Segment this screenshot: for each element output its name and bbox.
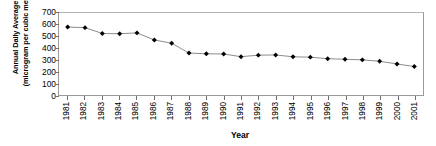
x-axis-title: Year <box>0 130 436 140</box>
data-point-marker <box>100 31 105 36</box>
data-point-marker <box>291 54 296 59</box>
x-tick-mark <box>398 96 399 100</box>
x-tick-mark <box>84 96 85 100</box>
data-point-marker <box>204 51 209 56</box>
x-tick-mark <box>241 96 242 100</box>
data-point-marker <box>239 54 244 59</box>
x-tick-mark <box>224 96 225 100</box>
data-point-marker <box>187 51 192 56</box>
x-tick-label: 1985 <box>131 102 141 120</box>
data-point-marker <box>65 25 70 30</box>
data-point-marker <box>117 31 122 36</box>
x-tick-label: 1989 <box>201 102 211 120</box>
data-point-marker <box>221 52 226 57</box>
y-tick-mark <box>55 36 59 37</box>
y-tick-label: 700 <box>24 8 56 16</box>
data-point-marker <box>308 55 313 60</box>
x-tick-label: 1986 <box>149 102 159 120</box>
y-tick-label: 200 <box>24 68 56 76</box>
x-tick-mark <box>119 96 120 100</box>
x-tick-mark <box>328 96 329 100</box>
x-tick-label: 1982 <box>79 102 89 120</box>
y-axis-title-line1: Annual Daily Average <box>11 0 21 91</box>
x-tick-mark <box>276 96 277 100</box>
data-point-marker <box>343 57 348 62</box>
x-tick-mark <box>136 96 137 100</box>
x-tick-label: 1983 <box>97 102 107 120</box>
x-tick-label: 1995 <box>306 102 316 120</box>
x-tick-mark <box>363 96 364 100</box>
y-tick-mark <box>55 84 59 85</box>
x-tick-label: 1984 <box>114 102 124 120</box>
data-point-marker <box>360 57 365 62</box>
y-tick-mark <box>55 60 59 61</box>
x-tick-mark <box>206 96 207 100</box>
y-tick-mark <box>55 96 59 97</box>
data-point-marker <box>377 59 382 64</box>
x-tick-label: 1988 <box>184 102 194 120</box>
x-tick-mark <box>311 96 312 100</box>
data-point-marker <box>325 56 330 61</box>
x-tick-mark <box>189 96 190 100</box>
x-tick-label: 1997 <box>341 102 351 120</box>
data-point-marker <box>135 30 140 35</box>
x-tick-label: 1994 <box>288 102 298 120</box>
x-tick-label: 1992 <box>253 102 263 120</box>
x-tick-label: 1981 <box>62 102 72 120</box>
x-tick-mark <box>102 96 103 100</box>
x-tick-label: 1996 <box>323 102 333 120</box>
x-tick-label: 1991 <box>236 102 246 120</box>
x-tick-label: 1993 <box>271 102 281 120</box>
chart-figure: Annual Daily Average (microgram per cubi… <box>0 0 436 146</box>
data-point-marker <box>412 64 417 69</box>
data-point-marker <box>169 41 174 46</box>
y-tick-mark <box>55 12 59 13</box>
x-tick-label: 2000 <box>393 102 403 120</box>
plot-area <box>58 12 424 96</box>
x-tick-mark <box>67 96 68 100</box>
x-tick-mark <box>171 96 172 100</box>
y-tick-mark <box>55 48 59 49</box>
y-tick-label: 600 <box>24 20 56 28</box>
data-point-marker <box>152 38 157 43</box>
data-series-line <box>59 13 423 95</box>
data-point-marker <box>395 62 400 67</box>
x-tick-mark <box>346 96 347 100</box>
x-tick-label: 1990 <box>219 102 229 120</box>
y-axis-ticks: 7006005004003002001000 <box>22 0 56 146</box>
x-tick-label: 1987 <box>166 102 176 120</box>
x-tick-mark <box>154 96 155 100</box>
y-tick-label: 500 <box>24 32 56 40</box>
x-tick-label: 1998 <box>358 102 368 120</box>
y-tick-label: 400 <box>24 44 56 52</box>
y-tick-label: 300 <box>24 56 56 64</box>
x-tick-mark <box>293 96 294 100</box>
data-point-marker <box>256 53 261 58</box>
data-point-marker <box>273 52 278 57</box>
x-tick-label: 2001 <box>410 102 420 120</box>
y-tick-mark <box>55 72 59 73</box>
x-tick-mark <box>415 96 416 100</box>
y-tick-mark <box>55 24 59 25</box>
x-tick-mark <box>258 96 259 100</box>
y-tick-label: 100 <box>24 80 56 88</box>
y-tick-label: 0 <box>24 92 56 100</box>
x-tick-label: 1999 <box>375 102 385 120</box>
data-point-marker <box>83 25 88 30</box>
x-tick-mark <box>380 96 381 100</box>
